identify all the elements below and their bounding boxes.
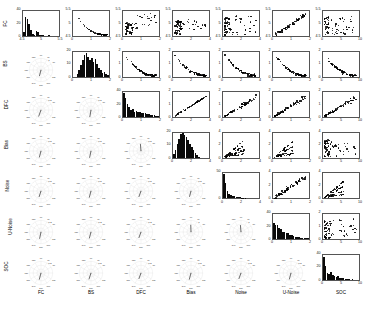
y-tick-label: 20 (17, 22, 21, 26)
svg-text:210: 210 (176, 238, 180, 240)
svg-text:210: 210 (76, 238, 80, 240)
y-tick-label: 1 (319, 103, 321, 107)
svg-text:60: 60 (47, 137, 50, 139)
panel-histogram-bs: 01201020 (72, 51, 110, 78)
y-tick-label: 2 (319, 49, 321, 53)
histogram-bar (43, 35, 45, 36)
svg-text:90: 90 (190, 176, 193, 178)
x-tick-label: 2 (240, 201, 242, 205)
scatter-point (288, 189, 289, 190)
scatter-point (194, 29, 195, 30)
x-tick-label: 10 (358, 119, 362, 123)
svg-text:300: 300 (147, 284, 151, 286)
scatter-point (103, 34, 104, 35)
x-tick-label: 0 (271, 79, 273, 83)
panel-scatter-bs-vs-u-noise: 012012 (272, 51, 310, 78)
x-tick-label: 5 (340, 160, 342, 164)
scatter-point (353, 146, 354, 147)
svg-text:240: 240 (232, 244, 236, 246)
svg-text:210: 210 (176, 279, 180, 281)
y-tick-label: 20 (317, 265, 321, 269)
panel-scatter-bias-vs-u-noise: 012024 (272, 132, 310, 159)
svg-text:210: 210 (226, 238, 230, 240)
x-tick-label: 2 (159, 79, 161, 83)
y-tick-label: 4.5 (166, 35, 171, 39)
svg-text:60: 60 (97, 177, 100, 179)
scatter-point (139, 69, 140, 70)
svg-text:30: 30 (203, 183, 206, 185)
x-tick-label: 10 (358, 79, 362, 83)
svg-text:60: 60 (197, 218, 200, 220)
polar-vector (39, 70, 41, 76)
svg-text:180: 180 (124, 190, 128, 192)
column-label-fc: FC (38, 290, 44, 295)
svg-text:300: 300 (97, 203, 101, 205)
svg-text:210: 210 (26, 238, 30, 240)
polar-grid: 3060901201501802102402703003300.5 (122, 132, 160, 170)
y-tick-label: 0 (169, 76, 171, 80)
svg-text:120: 120 (182, 177, 186, 179)
x-tick-label: 0 (171, 119, 173, 123)
x-tick-label: 5 (340, 201, 342, 205)
panel-histogram-u-noise: 01202040 (272, 213, 310, 240)
scatter-point (285, 27, 286, 28)
polar-grid: 3060901201501802102402703003301 (172, 213, 210, 251)
scatter-point (277, 58, 278, 59)
y-tick-label: 0 (219, 76, 221, 80)
panel-polar-soc-vs-noise: 3060901201501802102402703003300.2 (222, 254, 260, 281)
x-tick-label: 10 (358, 38, 362, 42)
svg-text:90: 90 (140, 216, 143, 218)
scatter-point (184, 110, 185, 111)
y-tick-label: 0 (269, 197, 271, 201)
y-tick-label: 1 (219, 103, 221, 107)
scatter-point (332, 195, 333, 196)
polar-grid: 3060901201501802102402703003301 (222, 213, 260, 251)
scatter-point (324, 236, 325, 237)
x-tick-label: 2 (240, 119, 242, 123)
y-tick-label: 0 (219, 197, 221, 201)
panel-polar-bias-vs-dfc: 3060901201501802102402703003300.5 (122, 132, 160, 159)
panel-polar-u-noise-vs-fc: 3060901201501802102402703003300.2 (22, 213, 60, 240)
svg-text:240: 240 (32, 122, 36, 124)
polar-vector (189, 191, 191, 197)
scatter-point (343, 105, 344, 106)
svg-text:30: 30 (103, 223, 106, 225)
scatter-point (341, 70, 342, 71)
scatter-point (195, 24, 196, 25)
svg-text:150: 150 (126, 264, 130, 266)
scatter-point (205, 75, 206, 76)
panel-scatter-bs-vs-soc: 0510012 (322, 51, 360, 78)
y-tick-label: 5.5 (316, 8, 321, 12)
y-tick-label: 0 (19, 35, 21, 39)
svg-text:150: 150 (126, 223, 130, 225)
scatter-point (355, 153, 356, 154)
svg-text:60: 60 (97, 218, 100, 220)
panel-polar-noise-vs-bs: 3060901201501802102402703003300.5 (72, 172, 110, 199)
scatter-point (281, 31, 282, 32)
scatter-point (255, 20, 256, 21)
x-tick-label: 10 (358, 160, 362, 164)
scatter-point (340, 183, 341, 184)
x-tick-label: 2 (109, 38, 111, 42)
x-tick-label: 2 (240, 160, 242, 164)
y-tick-label: 2 (319, 143, 321, 147)
scatter-point (297, 182, 298, 183)
scatter-point (194, 20, 195, 21)
svg-text:150: 150 (176, 183, 180, 185)
x-tick-label: 0 (221, 119, 223, 123)
scatter-point (326, 234, 327, 235)
svg-text:180: 180 (174, 231, 178, 233)
histogram-bars (323, 255, 359, 280)
svg-text:210: 210 (76, 116, 80, 118)
svg-text:90: 90 (240, 216, 243, 218)
panel-histogram-soc: 051002040 (322, 254, 360, 281)
svg-text:90: 90 (40, 54, 43, 56)
svg-text:210: 210 (126, 198, 130, 200)
svg-text:90: 90 (190, 257, 193, 259)
svg-text:300: 300 (47, 244, 51, 246)
y-tick-label: 10 (167, 143, 171, 147)
polar-grid: 3060901201501802102402703003300.5 (172, 172, 210, 210)
svg-text:120: 120 (282, 259, 286, 261)
x-tick-label: 5.5 (58, 38, 63, 42)
svg-text:270: 270 (89, 164, 93, 166)
